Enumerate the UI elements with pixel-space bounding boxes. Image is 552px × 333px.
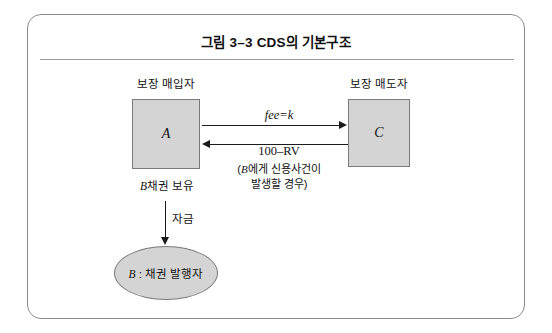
protection-buyer-caption: 보장 매입자 — [106, 75, 226, 91]
protection-seller-caption: 보장 매도자 — [319, 75, 439, 91]
credit-event-note: (B에게 신용사건이 발생할 경우) — [214, 162, 344, 192]
protection-buyer-box: A — [132, 99, 200, 169]
credit-event-note-text: 에게 신용사건이 — [248, 163, 321, 175]
bond-holding-entity: B — [140, 180, 147, 192]
bond-issuer-ellipse: B : 채권 발행자 — [114, 246, 218, 300]
protection-seller-letter: C — [349, 125, 409, 141]
protection-seller-box: C — [348, 99, 410, 167]
settlement-arrow-head — [202, 140, 210, 148]
figure-title: 그림 3–3 CDS의 기본구조 — [28, 31, 524, 51]
settlement-arrow-label: 100–RV — [224, 144, 334, 159]
title-divider — [40, 59, 514, 60]
bond-issuer-letter: B — [129, 268, 136, 280]
fee-arrow-line — [202, 125, 340, 126]
fee-arrow-label: fee=k — [224, 108, 334, 123]
funding-arrow-head — [161, 237, 169, 245]
bond-issuer-text: : 채권 발행자 — [136, 268, 204, 280]
bond-issuer-label: B : 채권 발행자 — [115, 265, 217, 281]
credit-event-entity: B — [241, 163, 248, 175]
protection-buyer-letter: A — [133, 126, 199, 142]
credit-event-note-line1: (B에게 신용사건이 — [214, 162, 344, 177]
fee-arrow-head — [339, 121, 347, 129]
figure-frame: 그림 3–3 CDS의 기본구조 보장 매입자 A 보장 매도자 C fee=k… — [27, 14, 525, 319]
bond-holding-text: 채권 보유 — [147, 180, 194, 192]
funding-arrow-line — [165, 201, 166, 239]
bond-holding-label: B채권 보유 — [107, 177, 227, 193]
credit-event-note-line2: 발생할 경우) — [214, 177, 344, 192]
funding-label: 자금 — [172, 210, 232, 226]
